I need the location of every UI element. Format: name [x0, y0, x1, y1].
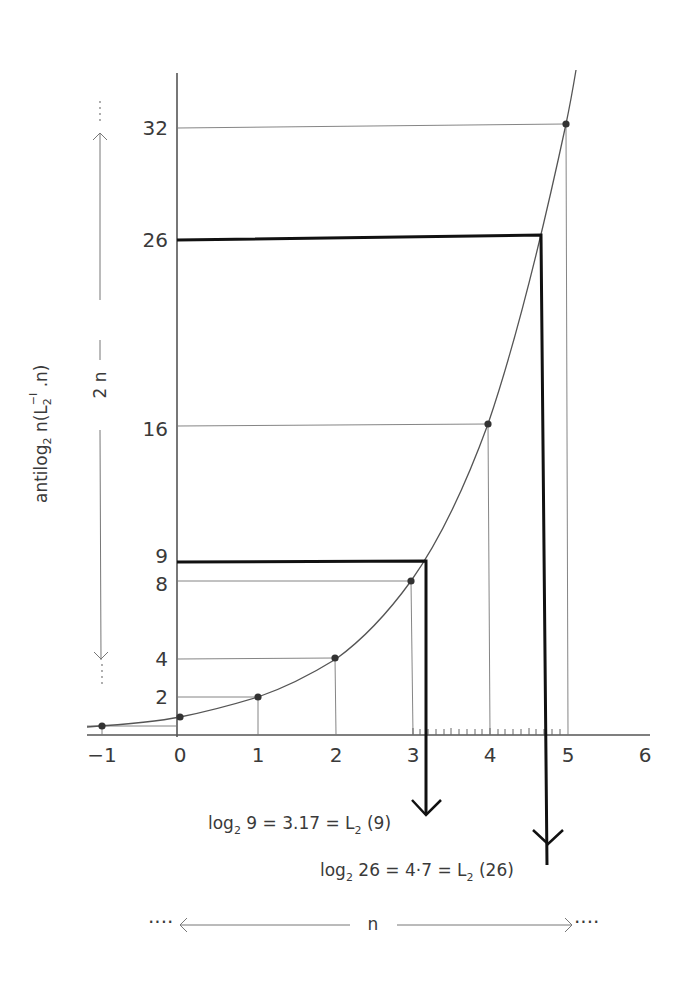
lookup-26	[177, 235, 547, 865]
x-range-dots-right: ····	[574, 910, 599, 934]
svg-text:2: 2	[155, 685, 168, 709]
x-tick-labels: −1 0 1 2 3 4 5 6	[87, 743, 651, 767]
y-axis-label: antilog2 n(L2−I .n)	[27, 365, 54, 503]
svg-text:9: 9	[155, 544, 168, 568]
point-n-1	[254, 693, 261, 700]
y-tick-labels: 32 26 16 9 8 4 2	[143, 116, 168, 709]
svg-text:6: 6	[639, 743, 652, 767]
point-n-3	[407, 577, 414, 584]
svg-text:0: 0	[174, 743, 187, 767]
chart: 32 26 16 9 8 4 2 −1 0 1 2 3 4 5 6 2 n an…	[0, 0, 677, 986]
lookup-lines	[177, 235, 547, 865]
svg-text:16: 16	[143, 417, 168, 441]
annotation-log2-26: log2 26 = 4·7 = L2 (26)	[320, 860, 514, 884]
exponential-curve	[87, 70, 576, 727]
svg-text:4: 4	[484, 743, 497, 767]
point-n-0	[176, 713, 183, 720]
svg-text:−1: −1	[87, 743, 116, 767]
point-n-5	[562, 120, 569, 127]
x-range-dots-left: ····	[148, 910, 173, 934]
svg-text:3: 3	[407, 743, 420, 767]
svg-text:1: 1	[252, 743, 265, 767]
svg-text:4: 4	[155, 647, 168, 671]
svg-text:5: 5	[562, 743, 575, 767]
x-axis-label: n	[368, 914, 379, 934]
point-n-4	[484, 420, 491, 427]
svg-text:8: 8	[155, 572, 168, 596]
y-axis-secondary-label: 2 n	[90, 372, 110, 399]
lookup-9	[177, 561, 426, 815]
annotation-log2-9: log2 9 = 3.17 = L2 (9)	[208, 813, 391, 837]
point-n-minus1	[98, 722, 105, 729]
svg-text:32: 32	[143, 116, 168, 140]
point-n-2	[331, 654, 338, 661]
svg-text:2: 2	[330, 743, 343, 767]
minor-ticks	[413, 728, 560, 735]
svg-text:26: 26	[143, 228, 168, 252]
lookup-arrowheads	[412, 800, 563, 844]
